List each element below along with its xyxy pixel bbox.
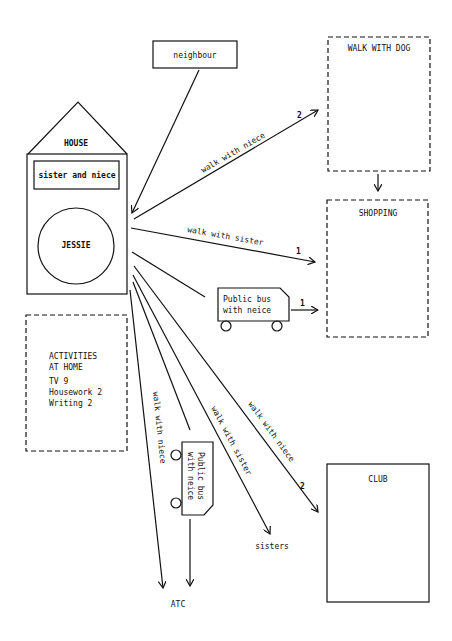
bus-right-line1: Public bus <box>223 295 271 304</box>
bus-down-line2: with neice <box>186 452 195 500</box>
arrow-neighbour-to-house <box>132 70 199 213</box>
sister-niece-label: sister and niece <box>38 170 115 180</box>
activities-title2: AT HOME <box>49 363 83 372</box>
activity-item: Writing 2 <box>49 399 93 408</box>
activities-title1: ACTIVITIES <box>49 352 97 361</box>
atc-label: ATC <box>171 600 186 609</box>
bus-down-line1: Public bus <box>196 452 205 500</box>
club-box <box>327 464 429 602</box>
edge-label-atc: walk with niece <box>151 391 168 464</box>
edge-label-walk-dog: walk with niece <box>200 131 267 175</box>
bus-right-body <box>218 288 289 321</box>
shopping-label: SHOPPING <box>359 209 398 218</box>
edge-count-bus-shopping: 1 <box>300 299 305 308</box>
edge-count-walk-dog: 2 <box>297 111 302 120</box>
bus-wheel-icon <box>221 321 231 331</box>
jessie-label: JESSIE <box>62 241 91 250</box>
bus-wheel-icon <box>171 450 181 460</box>
sisters-label: sisters <box>255 542 289 551</box>
line-to-bus <box>132 252 205 297</box>
bus-right-line2: with neice <box>223 306 271 315</box>
edge-label-shopping: walk with sister <box>187 225 265 247</box>
activity-item: Housework 2 <box>49 388 102 397</box>
neighbour-label: neighbour <box>173 51 217 60</box>
club-label: CLUB <box>368 475 387 484</box>
bus-wheel-icon <box>171 498 181 508</box>
activities-box <box>26 315 127 451</box>
walk-dog-label: WALK WITH DOG <box>348 44 411 53</box>
activity-item: TV 9 <box>49 377 68 386</box>
shopping-box <box>327 200 428 337</box>
edge-label-sisters: walk with sister <box>209 405 253 477</box>
edge-count-club: 2 <box>300 482 305 491</box>
diagram-canvas: neighbour HOUSE sister and niece JESSIE … <box>0 0 452 641</box>
house-label: HOUSE <box>64 139 88 148</box>
walk-dog-box <box>328 37 430 171</box>
edge-label-club: walk with niece <box>246 400 296 464</box>
edge-count-shopping: 1 <box>296 247 301 256</box>
arrow-to-walk-dog <box>134 110 318 219</box>
bus-wheel-icon <box>272 321 282 331</box>
